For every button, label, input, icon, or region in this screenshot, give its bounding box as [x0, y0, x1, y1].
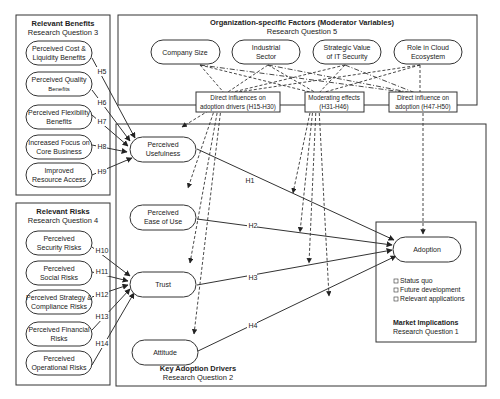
node-strategic-value-it-security: Strategic Valueof IT Security [313, 40, 381, 64]
svg-text:Perceived Flexibility: Perceived Flexibility [28, 109, 90, 117]
node-role-in-cloud-ecosystem: Role in CloudEcosystem [394, 40, 462, 64]
svg-text:Security Risks: Security Risks [37, 244, 82, 252]
svg-text:Social Risks: Social Risks [40, 274, 79, 281]
risks-subtitle: Research Question 4 [28, 216, 98, 225]
svg-text:Risks: Risks [50, 335, 68, 342]
svg-text:Direct influences on: Direct influences on [210, 94, 266, 101]
market-title: Market Implications [393, 319, 458, 327]
svg-text:Role in Cloud: Role in Cloud [407, 44, 449, 51]
svg-text:H7: H7 [98, 118, 107, 125]
svg-text:Perceived: Perceived [43, 355, 74, 362]
svg-text:Liquidity Benefits: Liquidity Benefits [33, 54, 86, 62]
svg-text:Improved: Improved [44, 167, 73, 175]
node-industrial-sector: IndustrialSector [232, 40, 300, 64]
risk-hypothesis-labels: H10 H11 H12 H13 H14 [94, 246, 109, 348]
node-improved-resource-access: ImprovedResource Access [26, 163, 92, 187]
svg-text:Perceived: Perceived [43, 235, 74, 242]
market-implications: Adoption Status quo Future development R… [393, 237, 465, 336]
svg-text:Perceived Financial: Perceived Financial [28, 326, 90, 333]
svg-text:Usefulness: Usefulness [146, 150, 181, 157]
benefit-nodes: Perceived Cost &Liquidity Benefits Perce… [26, 41, 92, 187]
node-attitude: Attitude [132, 340, 198, 365]
svg-text:Perceived: Perceived [147, 209, 178, 216]
svg-text:H14: H14 [96, 340, 109, 347]
driver-nodes: PerceivedUsefulness PerceivedEase of Use… [130, 137, 198, 365]
svg-text:of IT Security: of IT Security [326, 53, 368, 61]
svg-text:Strategic Value: Strategic Value [324, 44, 371, 52]
market-bullets: Status quo Future development Relevant a… [394, 277, 465, 303]
svg-text:Resource Access: Resource Access [32, 176, 87, 183]
benefits-subtitle: Research Question 3 [28, 28, 98, 37]
node-trust: Trust [130, 272, 196, 297]
svg-text:H1: H1 [246, 177, 255, 184]
svg-text:Adoption: Adoption [413, 246, 441, 254]
svg-text:H5: H5 [98, 68, 107, 75]
node-perceived-usefulness: PerceivedUsefulness [130, 137, 196, 162]
node-perceived-flexibility: Perceived FlexibilityBenefits [26, 105, 92, 129]
svg-text:adoption drivers (H15-H30): adoption drivers (H15-H30) [200, 103, 276, 111]
svg-text:H6: H6 [98, 99, 107, 106]
node-security-risks: PerceivedSecurity Risks [26, 231, 92, 255]
svg-text:Trust: Trust [155, 281, 171, 288]
svg-text:(H31-H46): (H31-H46) [319, 103, 348, 111]
svg-text:Operational Risks: Operational Risks [31, 364, 87, 372]
svg-text:H9: H9 [98, 168, 107, 175]
market-subtitle: Research Question 1 [393, 328, 459, 336]
moderators-subtitle: Research Question 5 [267, 27, 337, 36]
node-strategy-compliance-risks: Perceived Strategy &Compliance Risks [26, 290, 92, 314]
svg-text:Perceived Quality: Perceived Quality [32, 76, 87, 84]
box-moderating-effects: Moderating effects(H31-H46) [305, 92, 364, 112]
svg-text:Core Business: Core Business [36, 148, 82, 155]
svg-text:Moderating effects: Moderating effects [308, 94, 360, 102]
svg-text:Perceived Strategy &: Perceived Strategy & [26, 294, 92, 302]
svg-text:Future development: Future development [400, 286, 461, 294]
risks-title: Relevant Risks [36, 207, 89, 216]
svg-text:Status quo: Status quo [400, 277, 433, 285]
svg-text:Benefits: Benefits [46, 118, 72, 125]
node-financial-risks: Perceived FinancialRisks [26, 322, 92, 346]
svg-text:H13: H13 [96, 313, 109, 320]
svg-text:Direct influence on: Direct influence on [397, 94, 450, 101]
effect-boxes: Direct influences onadoption drivers (H1… [196, 92, 457, 112]
svg-text:H4: H4 [249, 322, 258, 329]
risk-nodes: PerceivedSecurity Risks PerceivedSocial … [26, 231, 92, 375]
svg-text:H10: H10 [96, 247, 109, 254]
node-adoption: Adoption [393, 237, 461, 262]
drivers-subtitle: Research Question 2 [163, 373, 233, 382]
research-model-diagram: Relevant Benefits Research Question 3 Re… [0, 0, 500, 399]
svg-text:H3: H3 [249, 274, 258, 281]
svg-text:H11: H11 [96, 268, 108, 275]
svg-text:Company Size: Company Size [162, 49, 208, 57]
node-operational-risks: PerceivedOperational Risks [26, 351, 92, 375]
svg-text:Relevant applications: Relevant applications [400, 295, 465, 303]
svg-text:Perceived: Perceived [43, 265, 74, 272]
svg-text:H2: H2 [249, 222, 258, 229]
svg-text:Ease of Use: Ease of Use [144, 218, 182, 225]
node-social-risks: PerceivedSocial Risks [26, 261, 92, 285]
box-direct-influence-adoption: Direct influence onadoption (H47-H50) [389, 92, 457, 112]
box-direct-influences-drivers: Direct influences onadoption drivers (H1… [196, 92, 280, 112]
svg-text:adoption (H47-H50): adoption (H47-H50) [395, 103, 450, 111]
svg-text:Sector: Sector [256, 53, 277, 60]
benefits-title: Relevant Benefits [32, 19, 95, 28]
moderator-nodes: Company Size IndustrialSector Strategic … [151, 40, 462, 64]
svg-text:Perceived: Perceived [147, 141, 178, 148]
svg-text:Benefits: Benefits [48, 86, 70, 92]
node-company-size: Company Size [151, 40, 220, 64]
svg-text:Increased Focus on: Increased Focus on [28, 139, 90, 146]
node-increased-focus: Increased Focus onCore Business [26, 135, 92, 159]
svg-text:Industrial: Industrial [252, 44, 281, 51]
svg-text:Compliance Risks: Compliance Risks [31, 303, 88, 311]
svg-text:Perceived Cost &: Perceived Cost & [32, 45, 86, 52]
svg-text:Attitude: Attitude [153, 349, 177, 356]
driver-hypothesis-labels: H1 H2 H3 H4 [244, 176, 258, 329]
node-perceived-ease-of-use: PerceivedEase of Use [130, 205, 196, 230]
node-perceived-quality: Perceived QualityBenefits [26, 72, 92, 96]
svg-text:H8: H8 [98, 143, 107, 150]
svg-text:H12: H12 [96, 291, 109, 298]
driver-arrows [197, 149, 396, 351]
svg-text:Ecosystem: Ecosystem [411, 53, 445, 61]
node-perceived-cost-liquidity: Perceived Cost &Liquidity Benefits [26, 41, 92, 65]
moderators-title: Organization-specific Factors (Moderator… [210, 18, 395, 27]
